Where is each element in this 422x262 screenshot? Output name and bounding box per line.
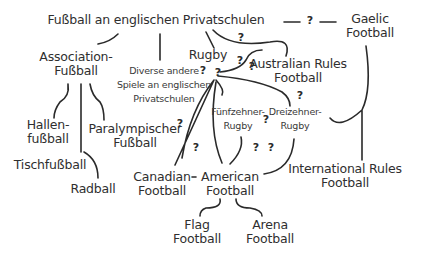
node-label: Football xyxy=(288,176,402,190)
node-diverse-games: Diverse andere Spiele an englischen Priv… xyxy=(117,64,211,105)
node-label: Flag xyxy=(173,218,221,232)
node-label: Rugby xyxy=(189,47,227,62)
node-label: Fußball an englischen Privatschulen xyxy=(48,12,265,27)
node-label: Fußball xyxy=(88,136,181,150)
node-label: Gaelic xyxy=(346,12,394,26)
node-label: fußball xyxy=(27,132,70,146)
edge-flag xyxy=(200,199,220,216)
node-hallenfussball: Hallen- fußball xyxy=(27,118,70,147)
question-mark-icon: ? xyxy=(193,141,199,154)
edge-association xyxy=(98,34,118,44)
node-tischfussball: Tischfußball xyxy=(14,158,86,172)
node-label: Hallen- xyxy=(27,118,70,132)
edge-paralympic xyxy=(90,84,104,120)
node-thirteen-a-side-rugby: Dreizehner- Rugby xyxy=(269,105,322,134)
node-label: Australian Rules xyxy=(249,57,347,71)
node-label: Privatschulen xyxy=(117,92,211,106)
node-association-football: Association- Fußball xyxy=(39,50,112,79)
node-label: Fußball xyxy=(39,64,112,78)
question-mark-icon: ? xyxy=(177,117,183,130)
edge-fuenf-american xyxy=(230,137,242,164)
node-flag-football: Flag Football xyxy=(173,218,221,247)
node-label: Arena xyxy=(246,218,294,232)
node-label: Football xyxy=(246,232,294,246)
edge-arena xyxy=(236,199,262,216)
question-mark-icon: ? xyxy=(249,60,255,73)
question-mark-icon: ? xyxy=(200,64,206,77)
node-label: Football xyxy=(249,71,347,85)
node-label: Fünfzehner- xyxy=(211,105,265,119)
node-label: Spiele an englischen xyxy=(117,78,211,92)
question-mark-icon: ? xyxy=(238,31,244,44)
node-arena-football: Arena Football xyxy=(246,218,294,247)
question-mark-icon: ? xyxy=(263,113,269,126)
edge-fuenfzehner xyxy=(216,80,223,95)
node-label: Football xyxy=(346,26,394,40)
question-mark-icon: ? xyxy=(215,66,221,79)
edge-hallen xyxy=(54,84,68,118)
node-label: Rugby xyxy=(211,119,265,133)
node-label: Football xyxy=(201,184,259,198)
node-canadian-football: Canadian Football xyxy=(133,170,190,199)
question-mark-icon: ? xyxy=(297,89,303,102)
node-fifteen-a-side-rugby: Fünfzehner- Rugby xyxy=(211,105,265,134)
node-label: Diverse andere xyxy=(117,64,211,78)
node-radball: Radball xyxy=(70,182,115,196)
question-mark-icon: ? xyxy=(237,54,243,67)
question-mark-icon: ? xyxy=(268,141,274,154)
node-label: Association- xyxy=(39,50,112,64)
node-international-rules: International Rules Football xyxy=(288,162,402,191)
node-label: Paralympischer xyxy=(88,122,181,136)
node-label: Canadian xyxy=(133,170,190,184)
node-label: Tischfußball xyxy=(14,157,86,172)
node-label: Radball xyxy=(70,181,115,196)
node-label: Football xyxy=(133,184,190,198)
node-australian-rules: Australian Rules Football xyxy=(249,57,347,86)
node-root: Fußball an englischen Privatschulen xyxy=(48,13,265,27)
node-label: American xyxy=(201,170,259,184)
node-label: Football xyxy=(173,232,221,246)
node-rugby: Rugby xyxy=(189,48,227,62)
node-label: Rugby xyxy=(269,119,322,133)
node-label: International Rules xyxy=(288,162,402,176)
node-paralympic-football: Paralympischer Fußball xyxy=(88,122,181,151)
edge-rugby xyxy=(206,32,214,48)
question-mark-icon: ? xyxy=(253,141,259,154)
node-label: Dreizehner- xyxy=(269,105,322,119)
node-american-football: American Football xyxy=(201,170,259,199)
node-gaelic-football: Gaelic Football xyxy=(346,12,394,41)
question-mark-icon: ? xyxy=(307,14,313,27)
